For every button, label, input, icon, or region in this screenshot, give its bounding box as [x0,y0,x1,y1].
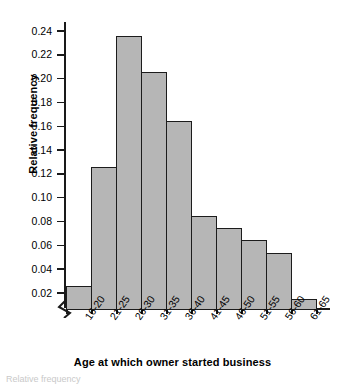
x-axis-tick [66,310,68,314]
y-axis-tick-label: 0.06 [6,240,52,251]
y-axis-tick [57,149,66,151]
y-axis-tick-label: 0.08 [6,216,52,227]
y-axis-tick-label: 0.14 [6,145,52,156]
y-axis-tick [57,245,66,247]
histogram-bar [116,36,142,310]
y-axis-tick [57,173,66,175]
y-axis-tick-label: 0.22 [6,49,52,60]
x-axis-title: Age at which owner started business [0,356,345,368]
y-axis-tick [57,30,66,32]
y-axis-tick-label: 0.24 [6,26,52,37]
y-axis-tick [57,126,66,128]
y-axis-tick [57,292,66,294]
y-axis-tick [57,221,66,223]
y-axis-tick [57,78,66,80]
y-axis-tick [57,197,66,199]
y-axis-tick-label: 0.12 [6,168,52,179]
y-axis-tick-label: 0.02 [6,288,52,299]
y-axis-tick-label: 0.04 [6,264,52,275]
y-axis-tick-label: 0.18 [6,97,52,108]
histogram-bar-group [66,22,330,310]
y-axis-tick-label: 0.20 [6,73,52,84]
y-axis-tick [57,54,66,56]
caption-fragment: Relative frequency [6,374,81,384]
y-axis-tick-label: 0.16 [6,121,52,132]
y-axis-tick [57,268,66,270]
y-axis-tick [57,102,66,104]
y-axis-tick-label: 0.10 [6,192,52,203]
